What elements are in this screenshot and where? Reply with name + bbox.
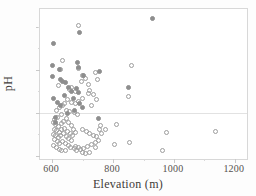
data-point-filled [96, 116, 101, 121]
data-point-open [94, 97, 99, 102]
y-axis-title: pH [1, 54, 16, 114]
scatter-plot-figure: 4.05.06.07.060080010001200 Elevation (m)… [0, 0, 256, 196]
data-point-filled [97, 69, 102, 74]
data-point-open [86, 91, 91, 96]
data-point-open [213, 129, 218, 134]
y-tick [36, 156, 40, 157]
y-tick-minor [38, 91, 40, 92]
data-point-open [86, 82, 91, 87]
data-point-open [63, 148, 68, 153]
x-axis-title: Elevation (m) [0, 177, 256, 192]
data-point-filled [62, 93, 67, 98]
data-point-open [93, 145, 98, 150]
data-point-open [60, 58, 65, 63]
data-point-open [69, 138, 74, 143]
data-point-open [91, 92, 96, 97]
data-point-filled [55, 100, 60, 105]
x-tick-label: 1000 [153, 164, 193, 174]
x-tick-minor [144, 159, 145, 161]
data-point-filled [50, 63, 55, 68]
data-point-filled [75, 60, 80, 65]
data-point-open [98, 123, 103, 128]
data-point-filled [69, 89, 74, 94]
x-tick-minor [204, 159, 205, 161]
data-point-open [54, 108, 59, 113]
data-point-open [112, 142, 117, 147]
data-point-filled [57, 67, 62, 72]
y-tick [36, 70, 40, 71]
data-point-filled [126, 85, 131, 90]
data-point-open [126, 94, 131, 99]
plot-frame [39, 8, 248, 160]
data-point-filled [77, 30, 82, 35]
data-point-filled [65, 111, 70, 116]
data-point-filled [50, 74, 55, 79]
plot-area [40, 9, 247, 159]
x-tick-minor [83, 159, 84, 161]
data-point-open [160, 148, 165, 153]
data-point-open [129, 63, 134, 68]
data-point-open [164, 130, 169, 135]
data-point-filled [81, 73, 86, 78]
x-tick-label: 800 [92, 164, 132, 174]
data-point-filled [150, 16, 155, 21]
data-point-open [127, 140, 132, 145]
y-tick-minor [38, 134, 40, 135]
x-tick-label: 1200 [214, 164, 254, 174]
data-point-open [103, 127, 108, 132]
data-point-open [114, 122, 119, 127]
data-point-filled [76, 90, 81, 95]
y-tick-minor [38, 48, 40, 49]
data-point-open [56, 83, 61, 88]
data-point-filled [76, 65, 81, 70]
data-point-filled [53, 115, 58, 120]
data-point-open [89, 103, 94, 108]
data-point-open [76, 23, 81, 28]
data-point-open [80, 150, 85, 155]
data-point-filled [71, 96, 76, 101]
data-point-open [73, 130, 78, 135]
data-point-filled [72, 108, 77, 113]
data-point-open [99, 131, 104, 136]
data-point-open [95, 77, 100, 82]
x-tick-label: 600 [31, 164, 71, 174]
data-point-filled [53, 120, 58, 125]
y-tick [36, 113, 40, 114]
data-point-filled [80, 105, 85, 110]
data-point-filled [51, 41, 56, 46]
y-tick-minor [38, 27, 40, 28]
